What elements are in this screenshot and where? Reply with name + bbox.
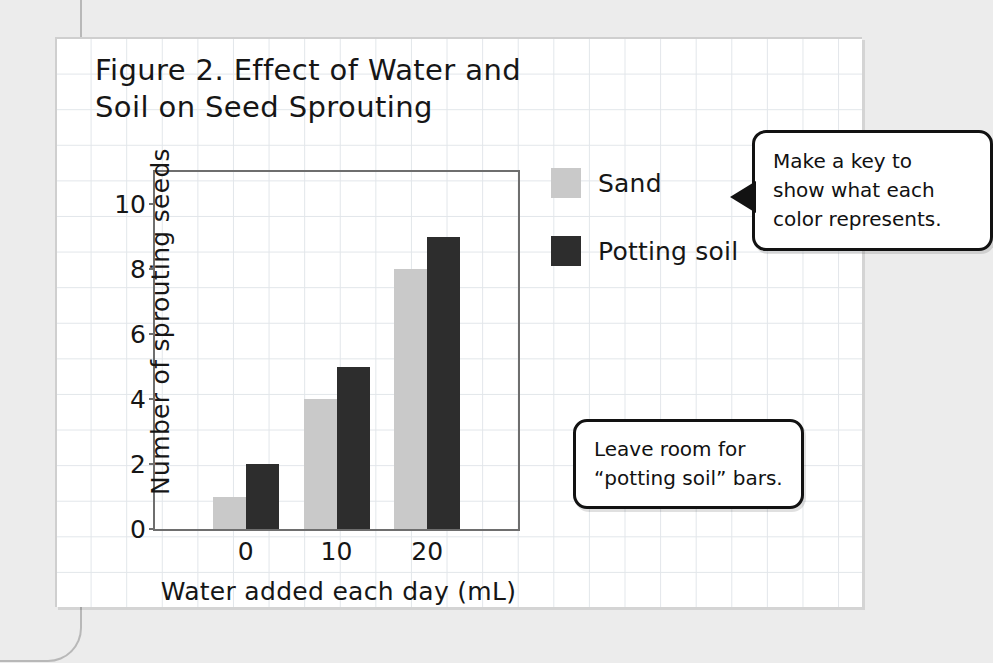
bars-container — [155, 172, 518, 529]
y-axis-tick-label: 6 — [130, 320, 146, 349]
figure-title: Figure 2. Effect of Water and Soil on Se… — [95, 52, 565, 126]
y-axis-tick-mark — [149, 268, 155, 270]
chart-plot-area: Number of sprouting seeds Water added ea… — [153, 170, 520, 531]
bar-potting-soil-10 — [337, 367, 370, 529]
y-axis-tick-label: 0 — [130, 515, 146, 544]
bar-potting-soil-0 — [246, 464, 279, 529]
legend-item-sand: Sand — [551, 168, 738, 198]
y-axis-tick-label: 4 — [130, 385, 146, 414]
callout-room-text: Leave room for “potting soil” bars. — [594, 435, 801, 493]
bar-potting-soil-20 — [427, 237, 460, 529]
bar-sand-10 — [304, 399, 337, 529]
y-axis-tick-mark — [149, 463, 155, 465]
chart-legend: Sand Potting soil — [551, 168, 738, 304]
y-axis-tick-mark — [149, 398, 155, 400]
legend-label-sand: Sand — [598, 169, 662, 198]
callout-make-a-key: Make a key to show what each color repre… — [752, 130, 993, 251]
y-axis-tick-label: 8 — [130, 255, 146, 284]
y-axis-tick-label: 2 — [130, 450, 146, 479]
y-axis-tick-mark — [149, 203, 155, 205]
y-axis-tick-label: 10 — [114, 190, 146, 219]
x-axis-tick-label: 0 — [238, 537, 254, 566]
x-axis-tick-label: 20 — [411, 537, 443, 566]
bar-sand-0 — [213, 497, 246, 529]
x-axis-title: Water added each day (mL) — [155, 577, 522, 606]
callout-tail-left-icon — [730, 181, 756, 213]
potting-soil-swatch-icon — [551, 236, 581, 266]
legend-label-potting-soil: Potting soil — [598, 237, 738, 266]
x-axis-tick-label: 10 — [321, 537, 353, 566]
sand-swatch-icon — [551, 168, 581, 198]
y-axis-tick-mark — [149, 528, 155, 530]
legend-item-potting-soil: Potting soil — [551, 236, 738, 266]
y-axis-tick-mark — [149, 333, 155, 335]
bar-sand-20 — [394, 269, 427, 529]
callout-key-text: Make a key to show what each color repre… — [773, 147, 990, 234]
callout-leave-room: Leave room for “potting soil” bars. — [573, 419, 804, 509]
